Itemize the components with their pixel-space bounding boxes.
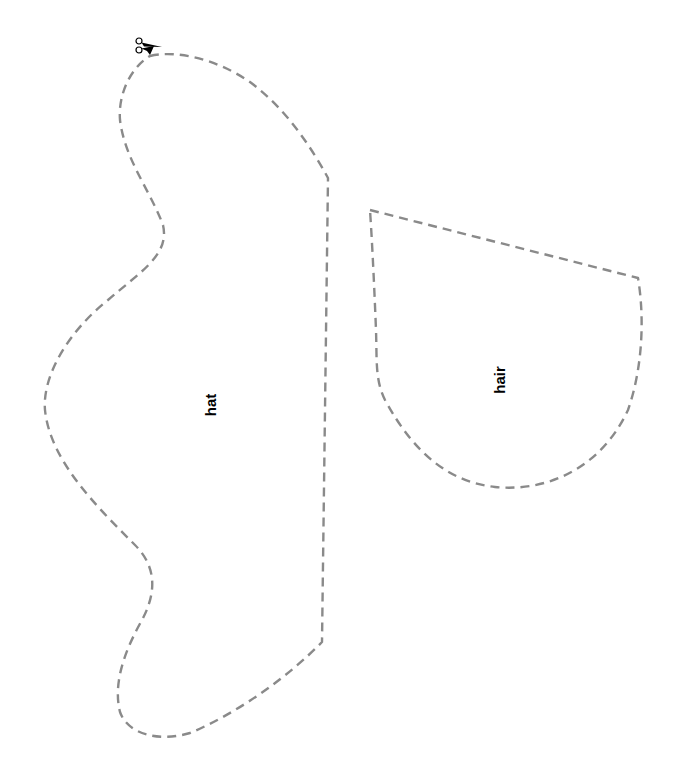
cutout-template: hat hair — [0, 0, 675, 784]
hair-label: hair — [491, 366, 508, 394]
hair-piece: hair — [370, 210, 642, 488]
hat-cut-line — [45, 54, 328, 737]
scissors-icon — [136, 38, 162, 55]
hair-cut-line — [370, 210, 642, 488]
hat-label: hat — [202, 394, 219, 417]
hat-piece: hat — [45, 54, 328, 737]
